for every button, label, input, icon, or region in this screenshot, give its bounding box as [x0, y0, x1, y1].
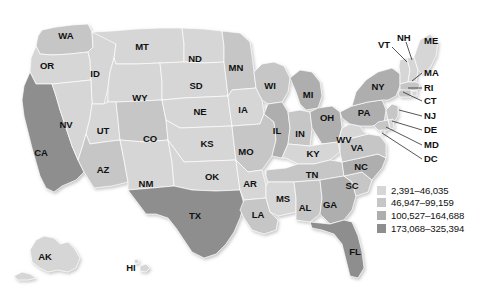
state-label-CA: CA [34, 147, 48, 158]
state-label-DE: DE [424, 124, 437, 135]
state-label-ND: ND [188, 53, 202, 64]
legend-label-tier1: 2,391–46,035 [391, 185, 449, 196]
state-label-OH: OH [320, 112, 334, 123]
state-label-KY: KY [306, 148, 320, 159]
legend-swatch-tier1 [377, 186, 386, 195]
leader-line-MD [386, 127, 422, 145]
state-label-AZ: AZ [97, 164, 110, 175]
state-HI[interactable] [140, 264, 150, 272]
us-map-svg: WAORIDNVCAMTWYUTAZCONMNDSDNEKSOKTXMNIAMO… [0, 0, 480, 297]
legend-swatch-tier4 [377, 224, 386, 233]
state-label-MN: MN [229, 62, 244, 73]
legend-swatch-tier3 [377, 211, 386, 220]
state-RI[interactable] [412, 91, 417, 96]
state-label-WY: WY [132, 92, 148, 103]
choropleth-map-figure: WAORIDNVCAMTWYUTAZCONMNDSDNEKSOKTXMNIAMO… [0, 0, 480, 297]
map-legend: 2,391–46,035 46,947–99,159 100,527–164,6… [377, 184, 477, 234]
state-label-MO: MO [238, 146, 253, 157]
state-label-HI: HI [126, 262, 136, 273]
state-label-MS: MS [276, 193, 290, 204]
legend-item[interactable]: 173,068–325,394 [377, 222, 477, 235]
state-label-IL: IL [273, 125, 282, 136]
state-label-WA: WA [58, 30, 73, 41]
state-label-VA: VA [351, 142, 364, 153]
state-label-MD: MD [424, 139, 439, 150]
states-layer [14, 24, 438, 280]
state-label-RI: RI [424, 82, 434, 93]
state-label-MA: MA [424, 67, 439, 78]
state-label-VT: VT [378, 39, 390, 50]
state-label-MT: MT [135, 41, 149, 52]
state-label-TN: TN [306, 169, 319, 180]
state-label-LA: LA [252, 209, 265, 220]
state-label-ID: ID [90, 68, 100, 79]
state-label-TX: TX [189, 210, 202, 221]
state-label-AL: AL [299, 202, 312, 213]
leader-line-NH [406, 42, 412, 60]
state-label-IA: IA [238, 104, 248, 115]
state-label-NE: NE [193, 106, 206, 117]
state-label-NY: NY [371, 81, 385, 92]
state-label-NH: NH [397, 32, 411, 43]
state-label-IN: IN [295, 128, 305, 139]
legend-item[interactable]: 46,947–99,159 [377, 197, 477, 210]
leader-line-VT [392, 47, 407, 62]
state-label-NC: NC [354, 161, 368, 172]
state-label-AK: AK [38, 251, 52, 262]
state-TX[interactable] [128, 186, 244, 258]
state-label-CO: CO [143, 133, 157, 144]
state-label-NM: NM [139, 178, 154, 189]
legend-item[interactable]: 2,391–46,035 [377, 184, 477, 197]
state-label-AR: AR [243, 178, 257, 189]
state-UT[interactable] [86, 102, 120, 144]
leader-line-NJ [399, 110, 422, 116]
state-label-OR: OR [40, 60, 54, 71]
legend-label-tier4: 173,068–325,394 [391, 223, 464, 234]
state-label-UT: UT [97, 125, 110, 136]
state-label-GA: GA [323, 199, 337, 210]
state-label-WI: WI [264, 80, 276, 91]
leader-line-DE [392, 121, 422, 130]
state-label-CT: CT [424, 95, 437, 106]
leader-line-DC [382, 133, 422, 159]
state-label-SC: SC [345, 180, 358, 191]
legend-label-tier2: 46,947–99,159 [391, 197, 454, 208]
state-label-DC: DC [424, 153, 438, 164]
state-label-ME: ME [424, 35, 438, 46]
state-label-OK: OK [205, 171, 219, 182]
state-label-KS: KS [200, 138, 213, 149]
legend-item[interactable]: 100,527–164,688 [377, 209, 477, 222]
state-label-WV: WV [336, 134, 352, 145]
state-label-MI: MI [303, 89, 314, 100]
state-CT[interactable] [398, 90, 411, 97]
state-label-NJ: NJ [424, 110, 436, 121]
state-AK-aleutians[interactable] [14, 272, 36, 280]
state-label-NV: NV [59, 119, 73, 130]
legend-swatch-tier2 [377, 198, 386, 207]
legend-label-tier3: 100,527–164,688 [391, 210, 464, 221]
state-label-FL: FL [349, 246, 361, 257]
state-label-SD: SD [189, 80, 202, 91]
state-label-PA: PA [358, 107, 371, 118]
